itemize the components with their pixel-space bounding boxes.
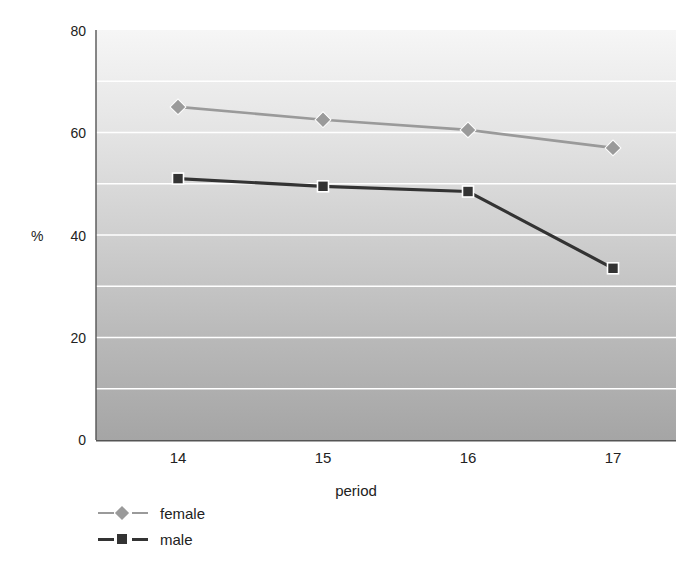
legend-label-male: male	[160, 531, 193, 548]
x-tick-label-16: 16	[438, 449, 498, 466]
legend-marker-diamond-icon	[96, 505, 150, 521]
legend-item-female[interactable]: female	[96, 500, 205, 526]
x-tick-label-15: 15	[293, 449, 353, 466]
legend-item-male[interactable]: male	[96, 526, 205, 552]
x-tick-label-17: 17	[583, 449, 643, 466]
legend-label-female: female	[160, 505, 205, 522]
x-axis-title: period	[306, 482, 406, 499]
data-point-male-17	[608, 263, 619, 274]
legend: female male	[96, 500, 205, 552]
data-point-male-15	[318, 181, 329, 192]
line-chart: 80 60 40 20 0 %	[0, 0, 698, 567]
data-point-male-14	[173, 173, 184, 184]
data-point-male-16	[463, 186, 474, 197]
legend-marker-square-icon	[96, 531, 150, 547]
x-tick-label-14: 14	[148, 449, 208, 466]
